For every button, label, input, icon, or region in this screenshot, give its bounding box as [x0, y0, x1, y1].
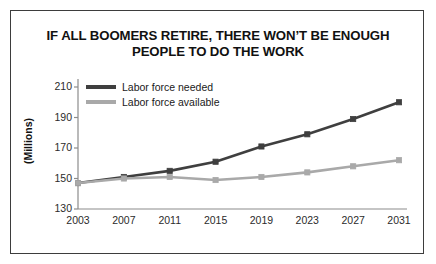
data-point — [75, 180, 80, 185]
legend-swatch — [86, 100, 116, 103]
series-labor-force-needed — [75, 100, 401, 186]
x-tick-label: 2015 — [196, 214, 236, 226]
y-tick-label: 190 — [42, 111, 72, 123]
legend-label: Labor force needed — [122, 81, 213, 93]
x-tick-label: 2019 — [241, 214, 281, 226]
data-point — [351, 164, 356, 169]
legend-item[interactable]: Labor force available — [86, 96, 219, 108]
x-tick-label: 2007 — [104, 214, 144, 226]
x-tick-label: 2003 — [58, 214, 98, 226]
data-point — [213, 159, 218, 164]
data-point — [305, 132, 310, 137]
data-point — [396, 100, 401, 105]
y-tick-label: 170 — [42, 141, 72, 153]
y-tick-label: 210 — [42, 80, 72, 92]
x-tick-label: 2031 — [379, 214, 419, 226]
data-point — [351, 116, 356, 121]
data-point — [259, 144, 264, 149]
y-tick-label: 130 — [42, 202, 72, 214]
chart-frame: IF ALL BOOMERS RETIRE, THERE WON’T BE EN… — [10, 10, 424, 254]
data-point — [259, 174, 264, 179]
data-point — [396, 158, 401, 163]
y-axis-title: (Millions) — [22, 118, 34, 164]
data-point — [167, 168, 172, 173]
data-point — [167, 174, 172, 179]
x-tick-label: 2023 — [287, 214, 327, 226]
legend-label: Labor force available — [122, 96, 219, 108]
data-point — [121, 176, 126, 181]
x-tick-label: 2011 — [150, 214, 190, 226]
x-tick-label: 2027 — [333, 214, 373, 226]
data-point — [305, 170, 310, 175]
legend-swatch — [86, 85, 116, 88]
series-labor-force-available — [75, 158, 401, 186]
data-point — [213, 177, 218, 182]
y-tick-label: 150 — [42, 172, 72, 184]
legend-item[interactable]: Labor force needed — [86, 81, 213, 93]
